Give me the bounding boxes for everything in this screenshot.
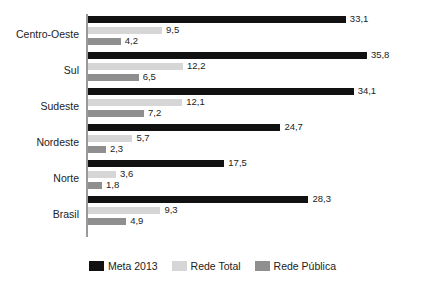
bar-value-label: 7,2	[148, 107, 161, 119]
legend-label: Meta 2013	[108, 260, 158, 272]
bar-value-label: 17,5	[228, 157, 247, 169]
category-label: Brasil	[0, 208, 79, 220]
bar-publica	[88, 146, 106, 153]
bar-total	[88, 171, 116, 178]
legend-swatch-icon	[89, 261, 104, 271]
bar-stack: 35,812,26,5	[88, 52, 425, 88]
bar-publica	[88, 110, 144, 117]
legend-item[interactable]: Rede Total	[172, 260, 241, 272]
bar-stack: 28,39,34,9	[88, 196, 425, 232]
bar-meta	[88, 196, 308, 203]
legend-label: Rede Total	[191, 260, 241, 272]
bar-stack: 17,53,61,8	[88, 160, 425, 196]
bar-value-label: 5,7	[136, 132, 149, 144]
bar-publica	[88, 182, 102, 189]
category-label: Sudeste	[0, 100, 79, 112]
bar-publica	[88, 74, 139, 81]
bar-total	[88, 63, 183, 70]
category-label: Norte	[0, 172, 79, 184]
bar-value-label: 3,6	[120, 168, 133, 180]
bar-total	[88, 207, 160, 214]
bar-value-label: 35,8	[371, 49, 390, 61]
bar-stack: 33,19,54,2	[88, 16, 425, 52]
bar-group: Nordeste24,75,72,3	[0, 124, 425, 160]
bar-group: Sul35,812,26,5	[0, 52, 425, 88]
bar-value-label: 1,8	[106, 179, 119, 191]
bar-value-label: 4,2	[125, 35, 138, 47]
bar-value-label: 6,5	[143, 71, 156, 83]
bar-group: Sudeste34,112,17,2	[0, 88, 425, 124]
category-label: Centro-Oeste	[0, 28, 79, 40]
legend-swatch-icon	[172, 261, 187, 271]
bar-meta	[88, 16, 346, 23]
bar-meta	[88, 160, 224, 167]
category-label: Sul	[0, 64, 79, 76]
bar-value-label: 2,3	[110, 143, 123, 155]
bar-value-label: 4,9	[130, 215, 143, 227]
bar-group: Centro-Oeste33,19,54,2	[0, 16, 425, 52]
bar-value-label: 34,1	[358, 85, 377, 97]
bar-value-label: 24,7	[284, 121, 303, 133]
bar-total	[88, 99, 182, 106]
bar-stack: 34,112,17,2	[88, 88, 425, 124]
bar-total	[88, 27, 162, 34]
bar-meta	[88, 88, 354, 95]
chart-legend: Meta 2013Rede TotalRede Pública	[0, 256, 425, 276]
legend-label: Rede Pública	[274, 260, 336, 272]
bar-meta	[88, 124, 280, 131]
bar-value-label: 12,1	[186, 96, 205, 108]
legend-item[interactable]: Rede Pública	[255, 260, 336, 272]
category-label: Nordeste	[0, 136, 79, 148]
plot-area: Centro-Oeste33,19,54,2Sul35,812,26,5Sude…	[0, 0, 425, 245]
bar-chart-figure: Centro-Oeste33,19,54,2Sul35,812,26,5Sude…	[0, 0, 425, 289]
bar-stack: 24,75,72,3	[88, 124, 425, 160]
legend-swatch-icon	[255, 261, 270, 271]
bar-value-label: 9,3	[164, 204, 177, 216]
bar-value-label: 33,1	[350, 13, 369, 25]
bar-publica	[88, 218, 126, 225]
bar-publica	[88, 38, 121, 45]
bar-value-label: 12,2	[187, 60, 206, 72]
legend-item[interactable]: Meta 2013	[89, 260, 158, 272]
bar-group: Brasil28,39,34,9	[0, 196, 425, 232]
bar-value-label: 28,3	[312, 193, 331, 205]
bar-group: Norte17,53,61,8	[0, 160, 425, 196]
bar-meta	[88, 52, 367, 59]
bar-value-label: 9,5	[166, 24, 179, 36]
bar-total	[88, 135, 132, 142]
